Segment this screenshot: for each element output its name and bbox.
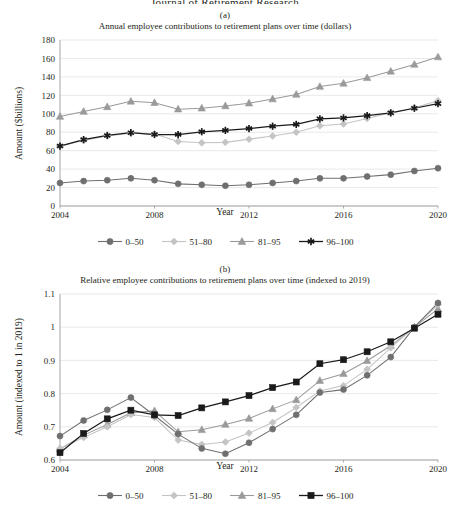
legend-item[interactable]: 0–50 xyxy=(97,236,144,247)
legend-label: 51–80 xyxy=(190,491,213,501)
data-point-marker xyxy=(199,445,205,451)
data-point-marker xyxy=(127,97,134,104)
y-tick-label: 0.9 xyxy=(44,356,56,366)
series-line xyxy=(60,309,438,449)
data-point-marker xyxy=(341,175,347,181)
data-point-marker xyxy=(246,440,252,446)
data-point-marker xyxy=(175,138,182,145)
chart-panel-b: (b) Relative employee contributions to r… xyxy=(0,254,450,508)
data-point-marker xyxy=(316,122,323,129)
data-point-marker xyxy=(198,139,205,146)
legend-item[interactable]: 0–50 xyxy=(97,490,144,501)
data-point-marker xyxy=(293,129,300,136)
data-point-marker xyxy=(81,417,87,423)
legend-item[interactable]: 96–100 xyxy=(298,490,354,501)
data-point-marker xyxy=(104,177,110,183)
data-point-marker xyxy=(222,439,229,446)
data-point-marker xyxy=(340,370,347,377)
data-point-marker xyxy=(435,165,441,171)
legend-marker-square-icon xyxy=(298,490,324,501)
legend-marker-diamond-icon xyxy=(161,236,187,247)
chart-panel-a: (a) Annual employee contributions to ret… xyxy=(0,0,450,254)
y-tick-label: 1.1 xyxy=(44,289,55,299)
panel-a-plot: Amount ($billions) 020406080100120140160… xyxy=(0,32,450,232)
data-point-marker xyxy=(238,238,246,245)
data-point-marker xyxy=(246,136,253,143)
data-point-marker xyxy=(222,183,228,189)
data-point-marker xyxy=(293,396,300,403)
legend-marker-circle-icon xyxy=(97,490,123,501)
data-point-marker xyxy=(307,492,313,498)
panel-b-x-axis-title: Year xyxy=(0,461,450,471)
panel-a-x-axis-title: Year xyxy=(0,207,450,217)
panel-a-label: (a) xyxy=(0,10,450,21)
data-point-marker xyxy=(175,181,181,187)
data-point-marker xyxy=(270,426,276,432)
legend-item[interactable]: 51–80 xyxy=(161,236,213,247)
panel-a-y-axis-title: Amount ($billions) xyxy=(14,86,24,159)
data-point-marker xyxy=(57,433,63,439)
y-tick-label: 0.8 xyxy=(44,389,56,399)
y-tick-label: 40 xyxy=(46,164,56,174)
data-point-marker xyxy=(170,238,177,245)
data-point-marker xyxy=(128,395,134,401)
legend-item[interactable]: 51–80 xyxy=(161,490,213,501)
legend-item[interactable]: 81–95 xyxy=(229,490,281,501)
panel-b-plot: Amount (indexed to 1 in 2019) 0.60.70.80… xyxy=(0,286,450,486)
data-point-marker xyxy=(293,412,299,418)
y-tick-label: 20 xyxy=(46,183,56,193)
data-point-marker xyxy=(106,238,112,244)
data-point-marker xyxy=(434,53,441,60)
data-point-marker xyxy=(57,180,63,186)
legend-label: 81–95 xyxy=(258,237,281,247)
legend-item[interactable]: 96–100 xyxy=(298,236,354,247)
y-tick-label: 140 xyxy=(42,72,56,82)
data-point-marker xyxy=(175,431,181,437)
data-point-marker xyxy=(364,372,370,378)
panel-b-title: Relative employee contributions to retir… xyxy=(0,275,450,286)
legend-label: 0–50 xyxy=(126,237,144,247)
data-point-marker xyxy=(317,175,323,181)
data-point-marker xyxy=(270,385,276,391)
y-tick-label: 120 xyxy=(42,91,56,101)
legend-marker-diamond-icon xyxy=(161,490,187,501)
data-point-marker xyxy=(317,390,323,396)
legend-item[interactable]: 81–95 xyxy=(229,236,281,247)
data-point-marker xyxy=(81,178,87,184)
data-point-marker xyxy=(435,300,441,306)
data-point-marker xyxy=(411,325,417,331)
panel-b-y-axis-title: Amount (indexed to 1 in 2019) xyxy=(14,318,24,436)
data-point-marker xyxy=(269,419,276,426)
panel-b-svg: 0.60.70.80.911.120042008201220162020 xyxy=(0,286,450,486)
data-point-marker xyxy=(293,178,299,184)
panel-a-legend: 0–5051–8081–9596–100 xyxy=(0,236,450,247)
data-point-marker xyxy=(170,492,177,499)
data-point-marker xyxy=(81,430,87,436)
data-point-marker xyxy=(128,175,134,181)
data-point-marker xyxy=(269,132,276,139)
series-line xyxy=(60,57,438,116)
data-point-marker xyxy=(199,182,205,188)
data-point-marker xyxy=(388,354,394,360)
y-tick-label: 100 xyxy=(42,109,56,119)
legend-label: 96–100 xyxy=(327,491,354,501)
y-tick-label: 0.7 xyxy=(44,422,56,432)
data-point-marker xyxy=(293,379,299,385)
data-point-marker xyxy=(104,407,110,413)
data-point-marker xyxy=(293,404,300,411)
y-tick-label: 80 xyxy=(46,127,56,137)
panel-b-label: (b) xyxy=(0,264,450,275)
data-point-marker xyxy=(104,416,110,422)
data-point-marker xyxy=(270,180,276,186)
legend-marker-asterisk-icon xyxy=(298,236,324,247)
panel-b-legend: 0–5051–8081–9596–100 xyxy=(0,490,450,501)
data-point-marker xyxy=(388,172,394,178)
data-point-marker xyxy=(388,339,394,345)
data-point-marker xyxy=(435,311,441,317)
y-tick-label: 1 xyxy=(51,322,56,332)
data-point-marker xyxy=(246,393,252,399)
data-point-marker xyxy=(152,177,158,183)
data-point-marker xyxy=(222,451,228,457)
y-tick-label: 160 xyxy=(42,54,56,64)
legend-label: 96–100 xyxy=(327,237,354,247)
